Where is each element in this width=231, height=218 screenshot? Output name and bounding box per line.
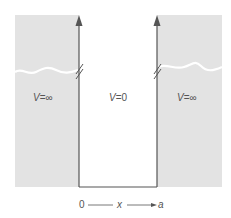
label-value: =0 [116,92,127,103]
label-variable: V [177,92,184,103]
left-region-label: V=∞ [33,92,53,103]
right-region-label: V=∞ [177,92,197,103]
axis-end-label: a [158,199,164,210]
label-value: =∞ [184,92,197,103]
potential-well-diagram [0,0,231,218]
center-region-label: V=0 [109,92,127,103]
axis-arrow-right-icon [151,203,157,207]
label-variable: V [109,92,116,103]
label-value: =∞ [40,92,53,103]
axis-start-label: 0 [79,199,85,210]
axis-variable-label: x [117,199,122,210]
label-variable: V [33,92,40,103]
